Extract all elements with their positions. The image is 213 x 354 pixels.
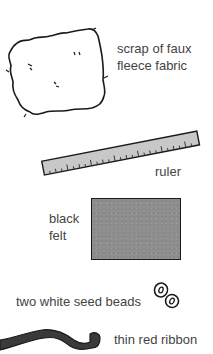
ribbon-icon — [0, 326, 104, 354]
fleece-scrap-icon — [4, 26, 112, 118]
beads-label: two white seed beads — [16, 293, 141, 310]
seed-beads-icon — [152, 280, 188, 310]
felt-square-icon — [91, 198, 181, 260]
felt-label: black felt — [49, 210, 79, 244]
ribbon-label: thin red ribbon — [114, 331, 197, 348]
ruler-label: ruler — [155, 163, 181, 180]
fleece-label: scrap of faux fleece fabric — [117, 40, 191, 74]
